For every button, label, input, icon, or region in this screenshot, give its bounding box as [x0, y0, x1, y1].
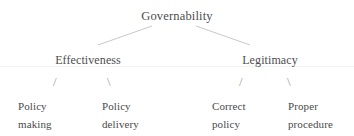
connector-root-to-legitimacy: [196, 26, 250, 45]
connector-root-to-effectiveness: [98, 26, 152, 45]
leaf-node-proper-procedure-line1: Proper: [288, 98, 333, 116]
leaf-node-policy-making-line1: Policy: [18, 98, 52, 116]
leaf-node-proper-procedure: Proper procedure: [288, 98, 333, 133]
leaf-node-correct-policy: Correct policy: [212, 98, 246, 133]
branch-node-effectiveness: Effectiveness: [28, 54, 148, 66]
leaf-node-policy-delivery: Policy delivery: [102, 98, 139, 133]
leaf-node-policy-making-line2: making: [18, 116, 52, 134]
leaf-node-proper-procedure-line2: procedure: [288, 116, 333, 134]
branch-node-legitimacy: Legitimacy: [210, 54, 330, 66]
scan-artifact-line: [0, 66, 354, 67]
connector-legitimacy-to-correct-policy: /: [239, 74, 243, 90]
governability-tree-diagram: Governability Effectiveness Legitimacy /…: [0, 0, 354, 136]
root-node-governability: Governability: [0, 10, 354, 23]
connector-effectiveness-to-policy-making: /: [53, 74, 57, 90]
leaf-node-policy-delivery-line1: Policy: [102, 98, 139, 116]
leaf-node-policy-delivery-line2: delivery: [102, 116, 139, 134]
connector-legitimacy-to-proper-procedure: \: [287, 74, 291, 90]
connector-effectiveness-to-policy-delivery: \: [107, 74, 111, 90]
leaf-node-policy-making: Policy making: [18, 98, 52, 133]
leaf-node-correct-policy-line1: Correct: [212, 98, 246, 116]
leaf-node-correct-policy-line2: policy: [212, 116, 246, 134]
